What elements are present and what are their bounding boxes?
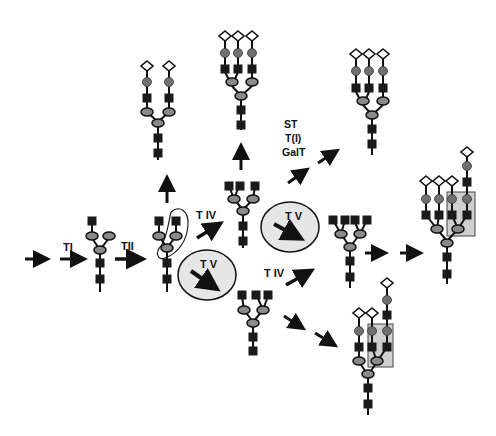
glycan-triantennary-gntv-extended bbox=[353, 278, 393, 415]
label-ti: T(I) bbox=[285, 132, 301, 144]
label-t4-lower: T IV bbox=[264, 267, 285, 279]
label-galt: GalT bbox=[282, 146, 306, 158]
glycan-monoantennary bbox=[86, 217, 115, 293]
glycan-tetraantennary-extended bbox=[420, 147, 475, 284]
t4-lower-arrow: T IV bbox=[264, 267, 309, 285]
glycan-triantennary-complete bbox=[219, 31, 258, 130]
t5-middle-enzyme: T V bbox=[261, 202, 319, 252]
t2-arrow: TII bbox=[115, 240, 140, 259]
glycan-biantennary-complete bbox=[141, 61, 175, 160]
label-t4-upper: T IV bbox=[196, 209, 217, 221]
st-galt-step: ST T(I) GalT bbox=[282, 118, 335, 183]
label-t5-lower: T V bbox=[200, 258, 218, 270]
arrow-to-gntv-ext-2 bbox=[315, 333, 333, 344]
glycan-triantennary-gntv bbox=[238, 291, 273, 356]
glycan-triantennary-complete-2 bbox=[350, 49, 389, 155]
glycan-pathway-diagram: TI TII bbox=[0, 0, 496, 436]
t1-arrow: TI bbox=[60, 241, 82, 259]
label-t5-middle: T V bbox=[285, 210, 303, 222]
t5-lower-enzyme: T V bbox=[178, 250, 236, 300]
label-t1: TI bbox=[63, 241, 73, 253]
arrow-to-gntv-ext-1 bbox=[284, 316, 301, 327]
label-t2: TII bbox=[121, 240, 134, 252]
glycan-triantennary-gntiv bbox=[225, 182, 260, 249]
t4-upper-arrow: T IV bbox=[196, 209, 218, 238]
label-st: ST bbox=[284, 118, 298, 130]
